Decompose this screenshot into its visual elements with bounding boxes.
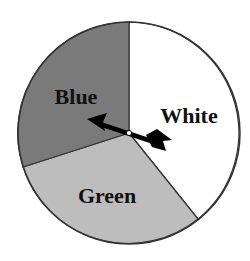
label-white: White xyxy=(160,103,218,128)
pivot-dot xyxy=(126,130,131,135)
label-green: Green xyxy=(78,183,136,208)
spinner: Blue White Green xyxy=(0,0,250,261)
label-blue: Blue xyxy=(55,84,98,109)
